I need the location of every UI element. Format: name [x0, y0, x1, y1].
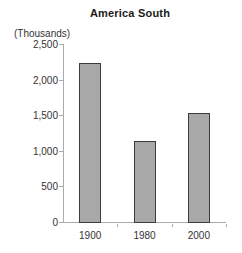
y-tick-label: 1,000 — [12, 147, 58, 157]
x-tick-mark — [226, 224, 227, 227]
y-tick-label: 2,000 — [12, 76, 58, 86]
y-tick-mark — [59, 222, 64, 223]
y-tick-label: 2,500 — [12, 40, 58, 50]
bar — [79, 63, 101, 223]
y-tick-label: 0 — [12, 218, 58, 228]
bar — [134, 141, 156, 223]
chart-title: America South — [24, 7, 236, 19]
y-tick-mark — [59, 80, 64, 81]
y-tick-label: 500 — [12, 182, 58, 192]
y-tick-mark — [59, 186, 64, 187]
x-tick-mark — [172, 224, 173, 227]
x-tick-label: 2000 — [172, 231, 226, 241]
y-tick-mark — [59, 115, 64, 116]
bar — [188, 113, 210, 223]
bar-chart: America South (Thousands) 05001,0001,500… — [0, 0, 242, 253]
y-tick-mark — [59, 44, 64, 45]
x-tick-mark — [117, 224, 118, 227]
x-tick-label: 1900 — [63, 231, 117, 241]
y-tick-mark — [59, 151, 64, 152]
y-tick-label: 1,500 — [12, 111, 58, 121]
y-axis-units-label: (Thousands) — [14, 28, 70, 39]
x-tick-label: 1980 — [118, 231, 172, 241]
